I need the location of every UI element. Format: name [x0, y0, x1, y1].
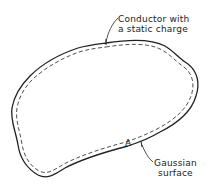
gaussian-label-line2: surface — [154, 168, 197, 178]
gaussian-leader-line — [142, 145, 153, 162]
conductor-label: Conductor with a static charge — [118, 14, 189, 34]
point-a-label: A — [125, 138, 131, 148]
conductor-label-line2: a static charge — [118, 24, 189, 34]
conductor-leader-line — [106, 18, 118, 42]
gaussian-tick-mark — [141, 141, 142, 147]
conductor-label-line1: Conductor with — [118, 14, 189, 24]
gaussian-surface-label: Gaussian surface — [154, 158, 197, 178]
conductor-outline — [12, 40, 198, 176]
gaussian-label-line1: Gaussian — [154, 158, 197, 168]
